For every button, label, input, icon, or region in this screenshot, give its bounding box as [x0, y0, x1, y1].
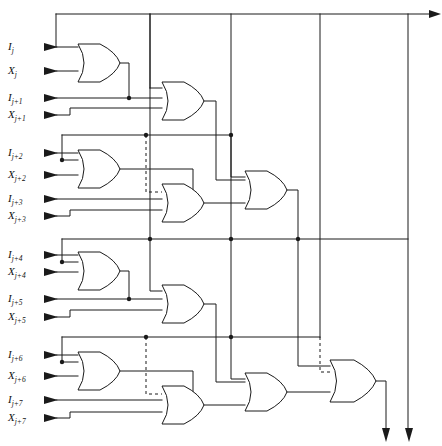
final-output-arrow [382, 428, 390, 442]
rail-bottom-output-arrow [405, 428, 413, 442]
signal-label-Ij5: Ij+5 [8, 293, 23, 304]
top-rail-output-arrow [429, 10, 441, 18]
or-gate-g7 [162, 285, 204, 323]
signal-label-Ij6: Ij+6 [8, 349, 23, 360]
block-2 [44, 133, 300, 241]
or-gate-g4 [162, 184, 204, 222]
or-gate-g9 [162, 386, 204, 424]
block-4 [44, 335, 330, 424]
final-output-stage [298, 239, 390, 442]
input-arrow-Xj5 [44, 313, 58, 321]
or-gate-g10 [245, 373, 287, 411]
input-arrow-Ij3 [44, 195, 58, 203]
signal-label-Ij3: Ij+3 [8, 193, 23, 204]
input-arrow-Ij5 [44, 295, 58, 303]
or-gate-g11 [330, 360, 376, 402]
input-arrow-Ij6 [44, 351, 58, 359]
signal-label-Xj3: Xj+3 [8, 210, 26, 221]
or-gate-g2 [162, 82, 204, 120]
signal-label-Ij: Ij [8, 41, 14, 52]
block-1 [44, 14, 245, 180]
circuit-diagram: Ij Xj Ij+1 Xj+1 Ij+2 Xj+2 Ij+3 Xj+3 Ij+4… [0, 0, 442, 446]
signal-label-Xj1: Xj+1 [8, 109, 26, 120]
top-distribution-rail [56, 10, 441, 18]
or-gate-g6 [78, 252, 120, 290]
circuit-schematic-canvas [0, 0, 442, 446]
signal-label-Xj: Xj [8, 65, 17, 76]
signal-label-Xj5: Xj+5 [8, 311, 26, 322]
input-arrow-Xj3 [44, 212, 58, 220]
signal-label-Ij2: Ij+2 [8, 147, 23, 158]
input-arrow-Ij7 [44, 396, 58, 404]
input-arrow-Ij1 [44, 94, 58, 102]
or-gate-g8 [78, 352, 120, 390]
input-arrow-Xj1 [44, 111, 58, 119]
input-arrow-Xj7 [44, 414, 58, 422]
dashed-connection-3 [146, 337, 162, 394]
dashed-connection-1 [146, 135, 162, 192]
input-arrow-Ij2 [44, 149, 58, 157]
signal-label-Xj6: Xj+6 [8, 370, 26, 381]
signal-label-Ij1: Ij+1 [8, 92, 23, 103]
or-gate-g5 [245, 171, 287, 209]
input-arrow-Xj2 [44, 171, 58, 179]
signal-label-Ij7: Ij+7 [8, 394, 23, 405]
or-gate-g3 [78, 150, 120, 188]
or-gate-g1 [78, 44, 120, 82]
dashed-connection-4 [320, 337, 330, 372]
input-arrow-Xj6 [44, 372, 58, 380]
input-arrow-Ij4 [44, 251, 58, 259]
junction-dot [229, 237, 233, 241]
signal-label-Xj4: Xj+4 [8, 266, 26, 277]
input-arrow-Xj4 [44, 268, 58, 276]
signal-label-Ij4: Ij+4 [8, 249, 23, 260]
signal-label-Xj2: Xj+2 [8, 169, 26, 180]
input-arrow-Xj [44, 67, 58, 75]
signal-label-Xj7: Xj+7 [8, 412, 26, 423]
